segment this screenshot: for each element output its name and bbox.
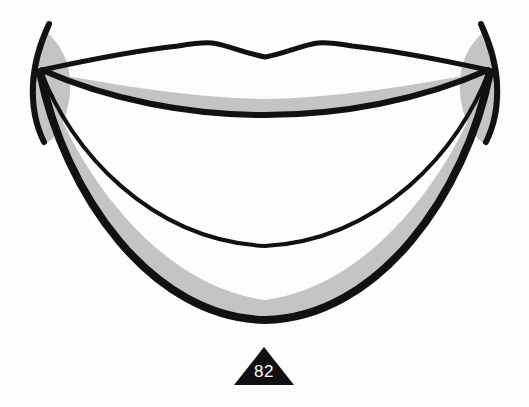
figure-canvas: 82 (0, 0, 529, 407)
lip-contour-diagram: 82 (0, 0, 529, 407)
marker-label: 82 (254, 362, 274, 381)
